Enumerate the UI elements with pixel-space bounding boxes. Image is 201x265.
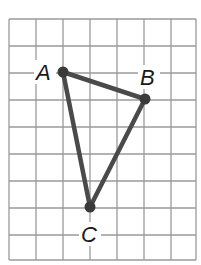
point-b — [140, 94, 151, 105]
segment-ab — [63, 72, 145, 99]
label-c: C — [81, 222, 97, 247]
point-a — [58, 67, 69, 78]
triangle-grid-diagram: A B C — [0, 0, 201, 265]
vertices — [58, 67, 151, 213]
grid — [9, 19, 196, 260]
label-a: A — [34, 60, 51, 85]
segment-ca — [63, 72, 90, 207]
point-c — [85, 202, 96, 213]
label-b: B — [140, 65, 155, 90]
triangle-segments — [63, 72, 145, 207]
